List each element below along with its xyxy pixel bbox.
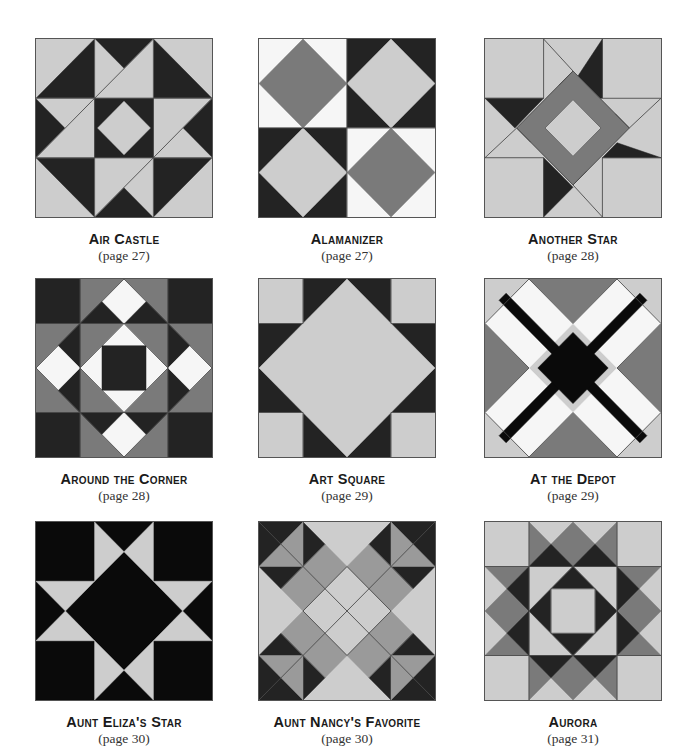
quilt-patch [259,279,303,324]
quilt-block-diagram [484,278,662,458]
quilt-block-card-at-the-depot: At the Depot (page 29) [484,278,662,504]
quilt-block-page-ref: (page 27) [35,248,213,264]
quilt-block-title: At the Depot [444,471,692,487]
quilt-block-title: Air Castle [0,231,253,247]
quilt-block-page-ref: (page 30) [35,731,213,747]
quilt-block-page-ref: (page 30) [258,731,436,747]
quilt-patch [259,413,303,458]
quilt-block-diagram [35,521,213,701]
quilt-block-diagram [484,38,662,218]
quilt-block-card-alamanizer: Alamanizer (page 27) [258,38,436,264]
quilt-block-diagram [35,38,213,218]
quilt-block-card-air-castle: Air Castle (page 27) [35,38,213,264]
quilt-patch [36,522,212,700]
quilt-patch [168,279,212,324]
quilt-block-card-another-star: Another Star (page 28) [484,38,662,264]
quilt-block-title: Aurora [444,714,692,730]
quilt-patch [391,413,435,458]
quilt-block-page-ref: (page 28) [35,488,213,504]
quilt-block-diagram [484,521,662,701]
quilt-block-title: Alamanizer [218,231,476,247]
quilt-patch [36,413,80,458]
quilt-block-title: Another Star [444,231,692,247]
quilt-block-title: Aunt Nancy's Favorite [218,714,476,730]
quilt-block-page-ref: (page 28) [484,248,662,264]
quilt-patch [391,279,435,324]
quilt-block-diagram [258,521,436,701]
quilt-block-card-art-square: Art Square (page 29) [258,278,436,504]
quilt-block-page-ref: (page 29) [258,488,436,504]
quilt-block-diagram [35,278,213,458]
quilt-patch [102,346,146,391]
quilt-block-diagram [258,38,436,218]
quilt-block-page-ref: (page 27) [258,248,436,264]
quilt-block-card-aunt-eliza-s-star: Aunt Eliza's Star (page 30) [35,521,213,747]
quilt-block-card-aurora: Aurora (page 31) [484,521,662,747]
quilt-block-title: Around the Corner [0,471,253,487]
quilt-patch [551,589,595,634]
quilt-patch [36,279,80,324]
quilt-block-diagram [258,278,436,458]
quilt-block-page-ref: (page 29) [484,488,662,504]
quilt-block-card-around-the-corner: Around the Corner (page 28) [35,278,213,504]
quilt-block-page-ref: (page 31) [484,731,662,747]
quilt-patch [168,413,212,458]
quilt-block-title: Aunt Eliza's Star [0,714,253,730]
quilt-block-title: Art Square [218,471,476,487]
quilt-block-card-aunt-nancy-s-favorite: Aunt Nancy's Favorite (page 30) [258,521,436,747]
